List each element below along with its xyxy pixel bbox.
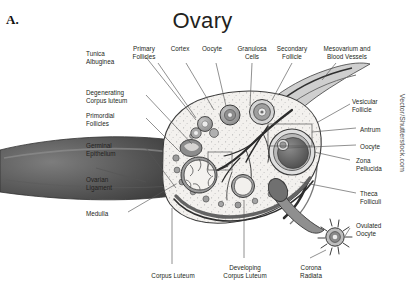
granulosa-follicle [220, 105, 240, 125]
label-corpus-luteum: Corpus Luteum [138, 272, 208, 280]
degenerating-corpus-luteum [180, 140, 202, 157]
oocyte-in-follicle [277, 139, 288, 150]
corpus-luteum-body [181, 157, 217, 193]
label-secondary-follicle: Secondary Follicle [272, 45, 312, 61]
label-primordial-follicles: Primordial Follicles [86, 112, 144, 128]
label-degenerating-corpus-luteum: Degenerating Corpus luteum [86, 89, 144, 105]
watermark: Vector/Shutterstock.com [399, 94, 406, 172]
label-vesicular-follicle: Vesicular Follicle [352, 98, 404, 114]
secondary-follicle [250, 100, 275, 125]
ovary-cross-section [163, 91, 352, 255]
ovulated-oocyte-corona-radiata [318, 219, 352, 255]
developing-corpus-luteum [232, 175, 255, 198]
vesicular-graafian-follicle [269, 129, 315, 175]
label-ovarian-ligament: Ovarian Ligament [86, 176, 144, 192]
label-cortex: Cortex [167, 45, 193, 53]
label-theca-folliculi: Theca Folliculi [360, 190, 405, 206]
label-granulosa-cells: Granulosa Cells [233, 45, 271, 61]
label-oocyte-top: Oocyte [198, 45, 226, 53]
label-tunica-albuginea: Tunica Albuginea [86, 50, 144, 66]
label-zona-pellucida: Zona Pellucida [356, 157, 404, 173]
label-corona-radiata: Corona Radiata [288, 264, 334, 280]
label-germinal-epithelium: Germinal Epithelium [86, 142, 144, 158]
label-medulla: Medulla [86, 210, 144, 218]
label-ovulated-oocyte: Ovulated Oocyte [356, 222, 404, 238]
label-mesovarium: Mesovarium and Blood Vessels [316, 45, 378, 61]
label-developing-corpus-luteum: Developing Corpus Luteum [212, 264, 278, 280]
